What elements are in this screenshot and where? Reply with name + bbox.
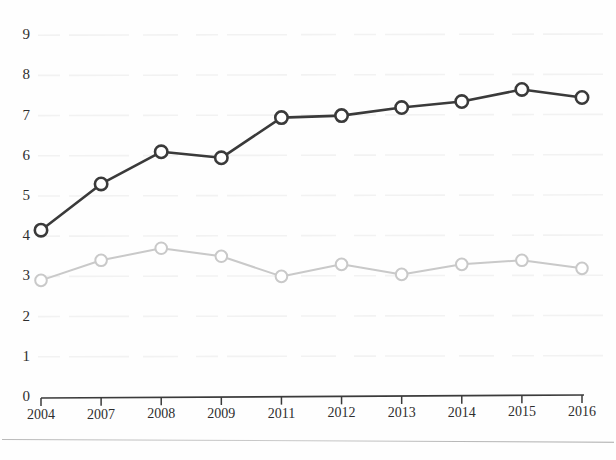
data-point-marker (576, 263, 588, 275)
data-point-marker (576, 91, 588, 103)
data-point-marker (275, 111, 287, 123)
gridline (38, 34, 610, 35)
data-point-marker (215, 152, 227, 164)
x-axis-line (41, 395, 584, 398)
x-axis-tick-label: 2008 (131, 407, 191, 421)
series-line (41, 89, 582, 230)
y-axis-tick-label: 1 (4, 349, 30, 364)
data-point-marker (155, 242, 167, 254)
data-point-marker (395, 101, 407, 113)
y-axis-tick-label: 5 (4, 188, 30, 203)
x-axis-tick-label: 2016 (552, 405, 612, 419)
data-point-marker (456, 259, 468, 271)
y-axis-tick-label: 2 (4, 309, 30, 324)
chart-figure: Chart 0123456789200420072008200920112012… (0, 0, 616, 460)
data-point-marker (216, 250, 228, 262)
x-axis-tick-label: 2011 (251, 407, 311, 421)
data-point-marker (35, 224, 47, 236)
data-point-marker (396, 269, 408, 281)
y-axis-tick-label: 9 (4, 27, 30, 42)
data-point-marker (95, 255, 107, 267)
line-chart-svg (0, 0, 616, 460)
x-axis-tick-label: 2004 (11, 408, 71, 422)
gridline (38, 74, 610, 75)
data-point-marker (335, 109, 347, 121)
y-axis-tick-label: 4 (4, 228, 30, 243)
x-axis-tick-label: 2009 (191, 407, 251, 421)
data-point-marker (456, 95, 468, 107)
data-point-marker (516, 83, 528, 95)
gridline (38, 235, 610, 236)
gridline (38, 315, 610, 316)
x-axis-tick-label: 2012 (312, 406, 372, 420)
y-axis-tick-label: 8 (4, 67, 30, 82)
x-axis-tick-label: 2013 (372, 406, 432, 420)
series-dark-series (35, 83, 588, 236)
data-point-marker (276, 271, 288, 283)
x-axis-tick-label: 2007 (71, 408, 131, 422)
data-point-marker (155, 146, 167, 158)
data-point-marker (336, 259, 348, 271)
gridline (38, 195, 610, 196)
series-light-series (35, 242, 588, 286)
data-point-marker (95, 178, 107, 190)
data-point-marker (516, 255, 528, 267)
plot-area: 0123456789200420072008200920112012201320… (0, 0, 616, 460)
gridline (38, 275, 610, 276)
x-axis-tick-label: 2015 (492, 405, 552, 419)
gridline (38, 356, 610, 357)
y-axis-tick-label: 6 (4, 148, 30, 163)
y-axis-tick-label: 0 (4, 389, 30, 404)
y-axis-tick-label: 3 (4, 268, 30, 283)
x-axis-tick-label: 2014 (432, 406, 492, 420)
data-point-marker (35, 275, 47, 287)
y-axis-tick-label: 7 (4, 108, 30, 123)
gridline (38, 155, 610, 156)
